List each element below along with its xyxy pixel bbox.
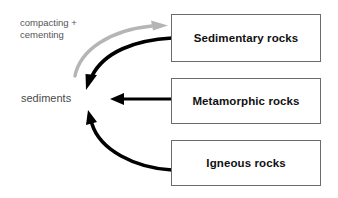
edge-sediments-to-sedimentary-arrowhead <box>151 21 168 31</box>
edge-metamorphic-to-sediments <box>110 93 171 105</box>
node-sediments-label: sediments <box>21 92 71 104</box>
node-igneous-rocks-label: Igneous rocks <box>206 157 285 169</box>
annotation-compacting-cementing: compacting + cementing <box>20 17 77 40</box>
node-igneous-rocks-box: Igneous rocks <box>171 140 321 186</box>
edge-sedimentary-to-sediments <box>86 38 173 90</box>
rock-cycle-diagram: compacting + cementing sediments Sedimen… <box>0 0 338 198</box>
edge-igneous-to-sediments <box>86 110 172 170</box>
annotation-line-1: compacting + <box>20 17 77 29</box>
node-metamorphic-rocks-label: Metamorphic rocks <box>192 95 299 107</box>
node-metamorphic-rocks-box: Metamorphic rocks <box>171 78 321 124</box>
annotation-line-2: cementing <box>20 29 77 41</box>
node-sedimentary-rocks-box: Sedimentary rocks <box>171 14 321 62</box>
edge-metamorphic-to-sediments-arrowhead <box>110 93 124 105</box>
edge-igneous-to-sediments-line <box>92 124 172 170</box>
node-sedimentary-rocks-label: Sedimentary rocks <box>194 32 299 44</box>
edge-sedimentary-to-sediments-line <box>92 38 172 76</box>
edge-igneous-to-sediments-arrowhead <box>86 110 97 125</box>
edge-sediments-to-sedimentary-line <box>75 26 152 76</box>
edge-sedimentary-to-sediments-arrowhead <box>86 74 98 90</box>
